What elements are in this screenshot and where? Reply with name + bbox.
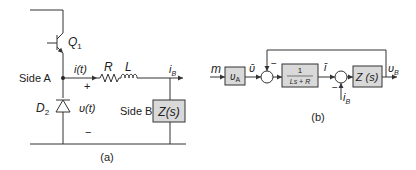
resistor-label: R (104, 60, 113, 74)
transistor-q1-icon (47, 33, 63, 53)
avg-current-label: ī (324, 61, 328, 73)
block-diagram-b: m υA ῡ − 1 Ls + R ī − iB Z (s) (210, 50, 399, 123)
circuit-a: Q1 Side A D2 i(t) + υ(t) − R L iB Z(s) S… (19, 10, 186, 163)
diode-label: D2 (36, 101, 50, 117)
plus-sign: + (84, 80, 90, 92)
impedance-block-label: Z (s) (355, 71, 379, 83)
disturbance-label: iB (343, 91, 350, 105)
side-b-label: Side B (120, 105, 152, 117)
disturbance-sign: − (332, 82, 338, 93)
summing-junction-1 (261, 71, 273, 83)
inductor-label: L (125, 60, 132, 74)
load-current-label: iB (169, 63, 176, 77)
impedance-label: Z(s) (157, 105, 179, 119)
output-label: υB (388, 62, 399, 76)
minus-sign: − (85, 126, 91, 138)
diode-d2-icon (56, 100, 70, 112)
caption-a: (a) (100, 151, 113, 163)
input-label: m (211, 62, 221, 76)
transistor-label: Q1 (68, 35, 82, 51)
transfer-denominator: Ls + R (290, 78, 310, 85)
top-wire (30, 10, 63, 33)
caption-b: (b) (311, 111, 324, 123)
side-a-label: Side A (19, 72, 51, 84)
resistor-icon (97, 74, 119, 82)
avg-voltage-label: ῡ (249, 62, 255, 74)
transfer-numerator: 1 (298, 66, 303, 75)
voltage-label: υ(t) (79, 102, 96, 114)
current-label: i(t) (74, 63, 87, 75)
inductor-icon (119, 74, 137, 78)
feedback-sign: − (271, 58, 277, 69)
